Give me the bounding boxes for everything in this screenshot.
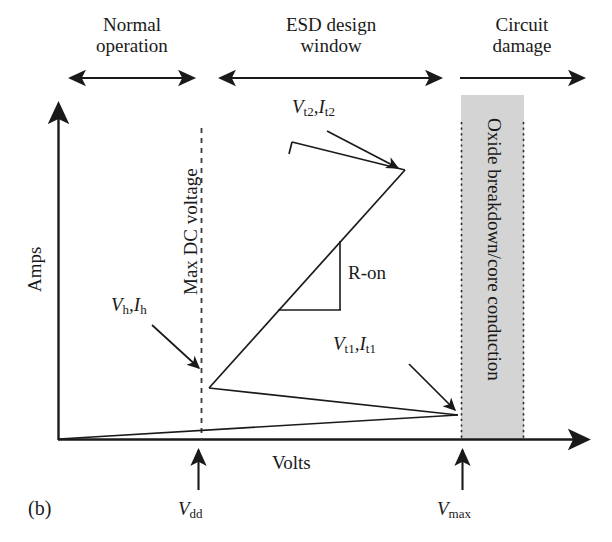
iv-curve-second-breakdown <box>292 142 405 170</box>
vdd-v: V <box>178 498 190 519</box>
vh-ih-label: Vh,Ih <box>111 294 147 318</box>
region-label-normal-operation-line1: Normal <box>62 14 202 35</box>
region-label-normal-operation: Normal operation <box>62 14 202 57</box>
region-label-esd-design-window: ESD design window <box>260 14 402 57</box>
iv-curve-leakage <box>59 415 458 439</box>
vt1-callout-arrow <box>409 364 455 410</box>
vt1-v-subscript: t1 <box>345 341 355 356</box>
vh-v: V <box>111 294 123 315</box>
vdd-subscript: dd <box>190 506 203 521</box>
max-dc-voltage-label: Max DC voltage <box>180 168 201 295</box>
vt2-callout-arrow <box>327 131 398 168</box>
panel-label: (b) <box>28 497 51 519</box>
vh-i-subscript: h <box>140 302 147 317</box>
vt1-v: V <box>333 333 345 354</box>
region-label-circuit-damage-line2: damage <box>452 35 592 56</box>
region-label-circuit-damage: Circuit damage <box>452 14 592 57</box>
vt2-i-subscript: t2 <box>325 104 335 119</box>
esd-design-window-figure: Normal operation ESD design window Circu… <box>0 0 612 542</box>
region-label-esd-design-window-line2: window <box>260 35 402 56</box>
vt1-it1-label: Vt1,It1 <box>333 333 376 357</box>
region-label-normal-operation-line2: operation <box>62 35 202 56</box>
vt1-i-subscript: t1 <box>366 341 376 356</box>
vt2-it2-label: Vt2,It2 <box>292 96 335 120</box>
iv-curve-second-breakdown-tick <box>289 142 292 154</box>
iv-curve-snapback <box>209 388 458 415</box>
vdd-tick-label: Vdd <box>178 498 203 522</box>
vmax-subscript: max <box>449 506 471 521</box>
x-axis-label: Volts <box>272 452 311 473</box>
vt2-v-subscript: t2 <box>304 104 314 119</box>
vh-callout-arrow <box>152 325 199 368</box>
region-label-esd-design-window-line1: ESD design <box>260 14 402 35</box>
region-label-circuit-damage-line1: Circuit <box>452 14 592 35</box>
oxide-breakdown-label: Oxide breakdown/core conduction <box>484 118 505 381</box>
y-axis-label: Amps <box>24 247 45 292</box>
vt2-v: V <box>292 96 304 117</box>
vmax-v: V <box>437 498 449 519</box>
vmax-tick-label: Vmax <box>437 498 471 522</box>
ron-label: R-on <box>348 262 386 283</box>
